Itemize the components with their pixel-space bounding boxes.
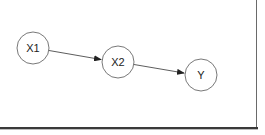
graph-svg: X1 X2 Y (0, 0, 265, 135)
node-x1[interactable]: X1 (17, 32, 49, 64)
node-x2[interactable]: X2 (102, 46, 134, 78)
node-x2-label: X2 (111, 56, 124, 68)
node-y[interactable]: Y (185, 59, 217, 91)
frame-bottom-shadow (0, 129, 258, 130)
node-x1-label: X1 (26, 42, 39, 54)
edge-x1-to-x2 (49, 51, 101, 60)
frame-right-border (256, 0, 257, 129)
edge-x2-to-y (134, 65, 184, 74)
node-y-label: Y (197, 69, 205, 81)
diagram-canvas: X1 X2 Y (0, 0, 265, 135)
